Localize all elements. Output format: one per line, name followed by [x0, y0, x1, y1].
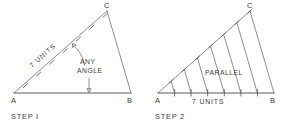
step1-figure: 7 UNITS ANY ANGLE A B C STEP I: [11, 1, 132, 121]
step1-vertex-label-b: B: [127, 96, 132, 105]
step1-angle-arc-arrowhead: [73, 43, 77, 47]
step2-parallel-label: PARALLEL: [205, 69, 243, 76]
step1-line-cb: [107, 11, 131, 93]
step1-units-label: 7 UNITS: [28, 42, 57, 69]
step2-units-label: 7 UNITS: [192, 98, 224, 105]
step2-vertex-label-b: B: [270, 96, 275, 105]
step1-caption: STEP I: [11, 112, 39, 121]
step2-figure: PARALLEL 7 UNITS A B C STEP 2: [155, 1, 275, 121]
step1-unit-ticks: [23, 13, 107, 88]
step1-vertex-label-c: C: [104, 1, 110, 10]
step2-caption: STEP 2: [155, 112, 185, 121]
step2-vertex-label-a: A: [155, 96, 160, 105]
construction-diagram: 7 UNITS ANY ANGLE A B C STEP I: [0, 0, 294, 126]
step1-line-ac: [14, 11, 107, 93]
step2-parallel-lines: [171, 23, 257, 93]
step1-vertex-label-a: A: [11, 96, 16, 105]
step1-angle-label-line1: ANY: [80, 58, 95, 65]
diagram-page: 7 UNITS ANY ANGLE A B C STEP I: [0, 0, 294, 126]
step2-vertex-label-c: C: [247, 1, 253, 10]
step1-angle-label-line2: ANGLE: [77, 67, 103, 74]
